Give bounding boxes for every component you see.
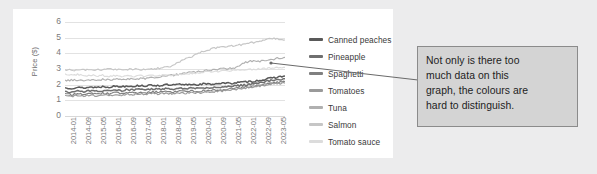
series-line <box>65 76 285 89</box>
callout-line-2: much data on this <box>426 68 570 83</box>
legend-item-label: Tomatoes <box>328 86 364 96</box>
plot-area <box>65 22 285 116</box>
x-tick-label: 2016-01 <box>114 117 123 144</box>
x-tick-label: 2018-01 <box>159 117 168 144</box>
legend-swatch-icon <box>309 72 323 74</box>
legend-swatch-icon <box>309 140 323 142</box>
y-axis-title: Price ($) <box>30 32 39 92</box>
x-tick-label: 2014-01 <box>69 117 78 144</box>
legend-swatch-icon <box>309 55 323 58</box>
legend-item-label: Tomato sauce <box>328 137 380 147</box>
callout-line-3: graph, the colours are <box>426 83 570 98</box>
y-tick-label: 6 <box>47 17 61 26</box>
legend-item[interactable]: Tomatoes <box>309 82 405 99</box>
legend-item[interactable]: Tuna <box>309 99 405 116</box>
callout-box: Not only is there too much data on this … <box>417 46 578 127</box>
x-tick-label: 2014-09 <box>84 117 93 144</box>
x-tick-label: 2019-05 <box>189 117 198 144</box>
x-tick-label: 2017-05 <box>144 117 153 144</box>
legend-swatch-icon <box>309 38 323 41</box>
y-tick-label: 5 <box>47 33 61 42</box>
legend-item[interactable]: Pineapple <box>309 48 405 65</box>
chart-card: Price ($) 0123456 2014-012014-092015-052… <box>13 9 393 158</box>
x-tick-label: 2021-05 <box>234 117 243 144</box>
chart-legend: Canned peachesPineappleSpaghettiTomatoes… <box>309 31 405 150</box>
legend-item-label: Pineapple <box>328 52 365 62</box>
y-tick-label: 0 <box>47 111 61 120</box>
y-tick-label: 1 <box>47 95 61 104</box>
series-lines <box>65 22 285 116</box>
legend-item-label: Canned peaches <box>328 35 391 45</box>
y-tick-label: 2 <box>47 80 61 89</box>
x-tick-label: 2015-05 <box>99 117 108 144</box>
x-tick-label: 2022-01 <box>249 117 258 144</box>
x-tick-label: 2020-01 <box>204 117 213 144</box>
legend-swatch-icon <box>309 89 323 91</box>
x-tick-label: 2023-05 <box>279 117 288 144</box>
x-tick-label: 2020-09 <box>219 117 228 144</box>
legend-swatch-icon <box>309 106 323 108</box>
legend-item-label: Spaghetti <box>328 69 364 79</box>
legend-item-label: Tuna <box>328 103 347 113</box>
x-axis-ticks: 2014-012014-092015-052016-012016-092017-… <box>65 117 285 163</box>
callout-line-4: hard to distinguish. <box>426 98 570 113</box>
series-line <box>65 38 285 71</box>
callout-line-1: Not only is there too <box>426 53 570 68</box>
y-tick-label: 4 <box>47 48 61 57</box>
x-tick-label: 2016-09 <box>129 117 138 144</box>
legend-item[interactable]: Salmon <box>309 116 405 133</box>
legend-item[interactable]: Tomato sauce <box>309 133 405 150</box>
x-tick-label: 2022-09 <box>264 117 273 144</box>
screenshot-root: Price ($) 0123456 2014-012014-092015-052… <box>0 0 597 174</box>
legend-swatch-icon <box>309 123 323 125</box>
x-tick-label: 2018-09 <box>174 117 183 144</box>
legend-item[interactable]: Spaghetti <box>309 65 405 82</box>
y-tick-label: 3 <box>47 64 61 73</box>
legend-item-label: Salmon <box>328 120 356 130</box>
legend-item[interactable]: Canned peaches <box>309 31 405 48</box>
